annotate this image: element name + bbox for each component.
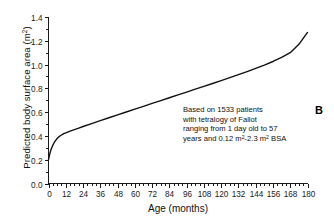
y-tick-label: 1.2 [31,38,43,47]
x-tick-label: 120 [215,190,229,199]
x-tick-label: 72 [148,190,158,199]
axes [49,17,308,184]
x-tick-label: 108 [198,190,212,199]
y-tick-label: 0.8 [31,85,43,94]
y-axis-tick-labels: 0.00.20.40.60.81.01.21.4 [31,14,43,190]
x-tick-label: 24 [79,190,89,199]
x-tick-label: 12 [62,190,72,199]
y-tick-label: 0.6 [31,109,43,118]
chart-annotation-note: Based on 1533 patients with tetralogy of… [183,105,286,143]
y-tick-label: 0.4 [31,133,43,142]
x-tick-label: 60 [131,190,141,199]
x-axis-ticks [50,184,309,188]
x-tick-label: 156 [267,190,281,199]
x-tick-label: 36 [96,190,106,199]
y-axis-title-text: Predicted body surface area (m [21,33,32,168]
y-axis-title-close: ) [21,26,32,29]
x-tick-label: 84 [165,190,175,199]
x-tick-label: 132 [232,190,246,199]
x-tick-label: 180 [302,190,316,199]
panel-label-b: B [315,104,323,116]
y-tick-label: 1.0 [31,62,43,71]
x-tick-label: 96 [183,190,193,199]
x-tick-label: 0 [47,190,52,199]
annotation-line-4-post: BSA [269,134,286,143]
y-tick-label: 0.0 [31,181,43,190]
annotation-line-4-pre: years and 0.12 m [183,134,242,143]
x-tick-label: 144 [250,190,264,199]
figure-panel-b: 0.00.20.40.60.81.01.21.4 012243648607284… [0,0,334,221]
x-axis-tick-labels: 01224364860728496108120132144156168180 [47,190,316,199]
annotation-line-1: Based on 1533 patients [183,105,286,115]
x-axis-title: Age (months) [48,203,308,214]
x-tick-label: 48 [114,190,124,199]
x-tick-label: 168 [284,190,298,199]
annotation-line-4: years and 0.12 m2-2.3 m2 BSA [183,134,286,144]
y-axis-title: Predicted body surface area (m2) [21,8,32,188]
y-tick-label: 1.4 [31,14,43,23]
y-tick-label: 0.2 [31,157,43,166]
annotation-line-2: with tetralogy of Fallot [183,115,286,125]
y-axis-title-superscript: 2 [21,30,28,34]
annotation-line-3: ranging from 1 day old to 57 [183,124,286,134]
annotation-line-4-mid: -2.3 m [245,134,267,143]
